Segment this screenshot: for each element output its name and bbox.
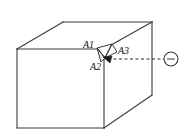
- figure-root: A1 A2 A3: [0, 0, 190, 140]
- label-a3: A3: [117, 45, 129, 56]
- viewpoint-marker: [164, 52, 178, 66]
- box-defect-diagram: A1 A2 A3: [0, 0, 190, 140]
- label-a2: A2: [89, 61, 101, 72]
- label-a1: A1: [82, 39, 94, 50]
